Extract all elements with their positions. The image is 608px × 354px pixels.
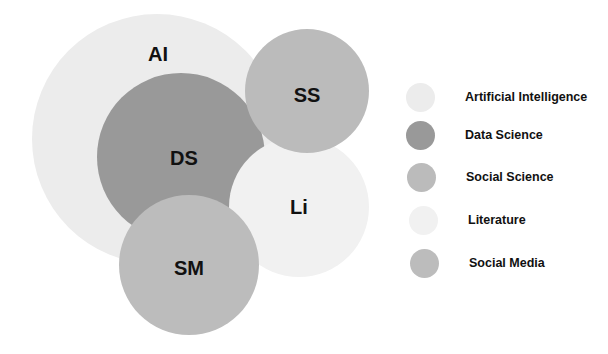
label-sm: SM: [174, 257, 204, 280]
legend-swatch: [410, 249, 439, 278]
label-ss: SS: [294, 84, 321, 107]
legend-item-social-media: Social Media: [410, 249, 545, 278]
legend-item-data-science: Data Science: [406, 121, 543, 150]
legend-item-artificial-intelligence: Artificial Intelligence: [406, 83, 587, 112]
legend-label: Data Science: [465, 128, 543, 142]
legend-swatch: [406, 83, 435, 112]
legend-swatch: [407, 163, 436, 192]
legend-swatch: [406, 121, 435, 150]
venn-diagram: AI DS Li SS SM Artificial Intelligence D…: [0, 0, 608, 354]
legend-item-social-science: Social Science: [407, 163, 554, 192]
label-li: Li: [290, 196, 308, 219]
legend-label: Artificial Intelligence: [465, 90, 587, 104]
legend-label: Social Media: [469, 256, 545, 270]
legend-label: Literature: [468, 213, 526, 227]
legend-label: Social Science: [466, 170, 554, 184]
legend-swatch: [409, 206, 438, 235]
label-ds: DS: [170, 147, 198, 170]
legend-item-literature: Literature: [409, 206, 526, 235]
label-ai: AI: [148, 43, 168, 66]
